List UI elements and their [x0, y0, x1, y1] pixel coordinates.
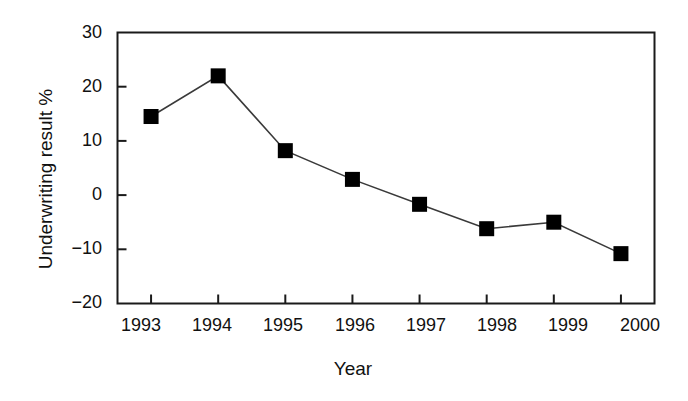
data-point-marker [479, 221, 494, 236]
chart-plot [0, 0, 688, 401]
data-point-marker [144, 109, 159, 124]
data-point-marker [546, 215, 561, 230]
y-tick-marks [118, 87, 127, 250]
plot-border [118, 33, 655, 304]
data-point-marker [613, 246, 628, 261]
data-point-marker [278, 143, 293, 158]
chart-figure: Underwriting result % Year 30 20 10 0 −1… [0, 0, 688, 401]
data-markers [144, 68, 629, 261]
data-point-marker [412, 197, 427, 212]
axes-frame [118, 33, 655, 304]
x-tick-marks [151, 295, 621, 304]
data-point-marker [211, 68, 226, 83]
data-point-marker [345, 172, 360, 187]
